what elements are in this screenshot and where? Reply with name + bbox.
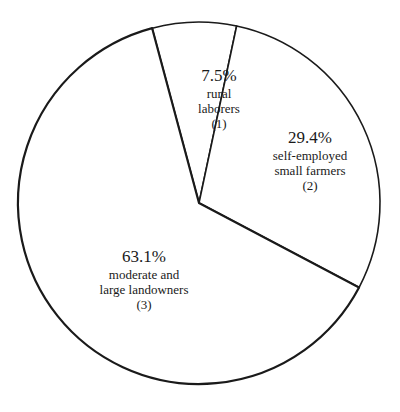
slice-1-label-line: laborers xyxy=(198,101,240,116)
slice-3-label-line: large landowners xyxy=(100,282,189,297)
slice-3-percent-label: 63.1% xyxy=(122,247,166,266)
slice-2-label-line: small farmers xyxy=(274,163,345,178)
slice-3-label-line: moderate and xyxy=(109,267,180,282)
pie-chart: 7.5%rurallaborers(1)29.4%self-employedsm… xyxy=(0,0,400,412)
slice-1-label-line: (1) xyxy=(211,116,226,131)
slice-2-label-line: self-employed xyxy=(273,148,348,163)
slice-2-percent-label: 29.4% xyxy=(288,128,332,147)
slice-1-label-line: rural xyxy=(207,86,232,101)
slice-1-percent-label: 7.5% xyxy=(201,66,236,85)
slice-3-label-line: (3) xyxy=(136,297,151,312)
slice-2-label-line: (2) xyxy=(302,178,317,193)
